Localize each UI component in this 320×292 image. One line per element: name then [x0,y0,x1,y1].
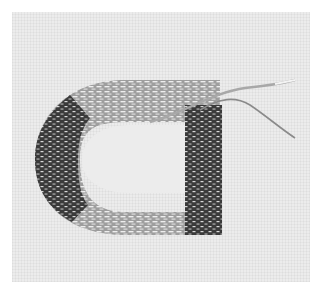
coil-dark-left [35,95,90,222]
embroidery-artwork [0,0,320,292]
coil-inner-opening [82,125,185,193]
coil-dark-right-bar [185,105,222,235]
